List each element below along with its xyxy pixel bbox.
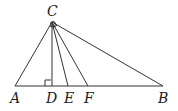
label-a: A xyxy=(8,90,20,106)
segment-cf xyxy=(52,22,88,86)
right-angle-marker xyxy=(45,80,51,86)
label-b: B xyxy=(157,90,168,106)
label-d: D xyxy=(45,90,57,106)
label-f: F xyxy=(83,90,95,106)
segment-ce xyxy=(52,22,68,86)
label-e: E xyxy=(63,90,74,106)
label-c: C xyxy=(47,3,58,19)
segment-ca xyxy=(15,22,52,86)
triangle-diagram: C A D E F B xyxy=(0,0,178,111)
segment-cb xyxy=(52,22,163,86)
